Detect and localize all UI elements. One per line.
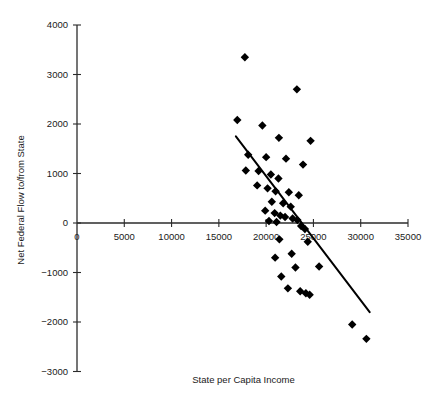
- y-tick-label: −1000: [41, 267, 68, 278]
- chart-background: [0, 0, 441, 408]
- y-tick-label: 4000: [47, 19, 68, 30]
- x-axis-title: State per Capita Income: [192, 374, 294, 385]
- x-tick-label: 35000: [395, 231, 421, 242]
- y-tick-label: 3000: [47, 69, 68, 80]
- y-axis-title: Net Federal Flow to/from State: [15, 135, 26, 264]
- y-tick-label: 2000: [47, 118, 68, 129]
- x-tick-label: 25000: [300, 231, 326, 242]
- y-tick-label: 1000: [47, 168, 68, 179]
- x-tick-label: 15000: [206, 231, 232, 242]
- y-tick-label: −2000: [41, 316, 68, 327]
- x-tick-label: 20000: [253, 231, 279, 242]
- x-tick-label: 10000: [158, 231, 184, 242]
- y-tick-label: −3000: [41, 366, 68, 377]
- chart-canvas: −3000−2000−100001000200030004000 0500010…: [0, 0, 441, 408]
- x-tick-label: 5000: [114, 231, 135, 242]
- scatter-chart: −3000−2000−100001000200030004000 0500010…: [0, 0, 441, 408]
- y-tick-label: 0: [63, 217, 68, 228]
- x-tick-label: 30000: [348, 231, 374, 242]
